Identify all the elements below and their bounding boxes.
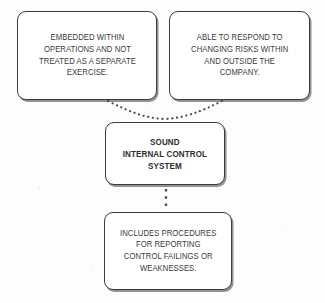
node-respond-label: ABLE TO RESPOND TO CHANGING RISKS WITHIN…	[187, 32, 292, 78]
node-sound-label: SOUND INTERNAL CONTROL SYSTEM	[119, 136, 211, 172]
node-sound-internal-control-system[interactable]: SOUND INTERNAL CONTROL SYSTEM	[105, 122, 225, 185]
node-able-to-respond[interactable]: ABLE TO RESPOND TO CHANGING RISKS WITHIN…	[169, 11, 310, 100]
node-embedded-label: EMBEDDED WITHIN OPERATIONS AND NOT TREAT…	[35, 32, 139, 78]
node-includes-label: INCLUDES PROCEDURES FOR REPORTING CONTRO…	[116, 228, 220, 274]
node-includes-procedures[interactable]: INCLUDES PROCEDURES FOR REPORTING CONTRO…	[104, 212, 232, 290]
node-embedded-within-operations[interactable]: EMBEDDED WITHIN OPERATIONS AND NOT TREAT…	[17, 11, 157, 100]
diagram-canvas: EMBEDDED WITHIN OPERATIONS AND NOT TREAT…	[0, 0, 325, 303]
connector-respond-to-sound	[165, 101, 222, 119]
connector-embedded-to-sound	[108, 101, 164, 119]
